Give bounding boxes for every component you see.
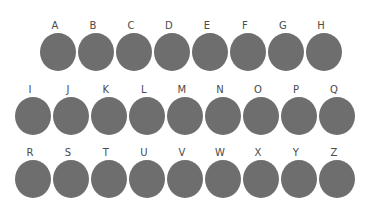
disc-shape-v[interactable] [167, 160, 203, 198]
disc-label-j: J [50, 84, 86, 96]
disc-cell-e[interactable]: E [192, 20, 228, 71]
disc-label-e: E [189, 20, 225, 32]
disc-cell-t[interactable]: T [91, 147, 127, 198]
disc-label-y: Y [278, 147, 314, 159]
disc-shape-k[interactable] [91, 97, 127, 135]
disc-cell-x[interactable]: X [243, 147, 279, 198]
disc-shape-x[interactable] [243, 160, 279, 198]
disc-label-q: Q [316, 84, 352, 96]
disc-shape-n[interactable] [205, 97, 241, 135]
disc-cell-d[interactable]: D [154, 20, 190, 71]
disc-cell-n[interactable]: N [205, 84, 241, 135]
disc-cell-q[interactable]: Q [319, 84, 355, 135]
disc-label-b: B [75, 20, 111, 32]
disc-cell-j[interactable]: J [53, 84, 89, 135]
disc-shape-f[interactable] [230, 33, 266, 71]
disc-shape-e[interactable] [192, 33, 228, 71]
disc-cell-b[interactable]: B [78, 20, 114, 71]
disc-shape-u[interactable] [129, 160, 165, 198]
disc-cell-l[interactable]: L [129, 84, 165, 135]
disc-shape-s[interactable] [53, 160, 89, 198]
row-2: IJKLMNOPQ [15, 84, 355, 135]
disc-label-k: K [88, 84, 124, 96]
disc-cell-p[interactable]: P [281, 84, 317, 135]
disc-label-v: V [164, 147, 200, 159]
disc-cell-o[interactable]: O [243, 84, 279, 135]
disc-cell-y[interactable]: Y [281, 147, 317, 198]
disc-shape-o[interactable] [243, 97, 279, 135]
disc-shape-r[interactable] [15, 160, 51, 198]
disc-label-t: T [88, 147, 124, 159]
disc-label-l: L [126, 84, 162, 96]
disc-label-h: H [303, 20, 339, 32]
disc-cell-f[interactable]: F [230, 20, 266, 71]
disc-cell-u[interactable]: U [129, 147, 165, 198]
disc-cell-h[interactable]: H [306, 20, 342, 71]
disc-label-x: X [240, 147, 276, 159]
disc-label-r: R [12, 147, 48, 159]
disc-shape-l[interactable] [129, 97, 165, 135]
disc-shape-c[interactable] [116, 33, 152, 71]
disc-label-m: M [164, 84, 200, 96]
disc-shape-j[interactable] [53, 97, 89, 135]
disc-label-c: C [113, 20, 149, 32]
disc-cell-i[interactable]: I [15, 84, 51, 135]
disc-label-f: F [227, 20, 263, 32]
disc-shape-q[interactable] [319, 97, 355, 135]
row-1: ABCDEFGH [40, 20, 342, 71]
disc-cell-g[interactable]: G [268, 20, 304, 71]
disc-cell-s[interactable]: S [53, 147, 89, 198]
disc-cell-c[interactable]: C [116, 20, 152, 71]
disc-cell-w[interactable]: W [205, 147, 241, 198]
disc-label-i: I [12, 84, 48, 96]
disc-shape-t[interactable] [91, 160, 127, 198]
disc-label-n: N [202, 84, 238, 96]
disc-label-w: W [202, 147, 238, 159]
disc-shape-m[interactable] [167, 97, 203, 135]
disc-label-o: O [240, 84, 276, 96]
disc-shape-p[interactable] [281, 97, 317, 135]
disc-label-p: P [278, 84, 314, 96]
disc-shape-d[interactable] [154, 33, 190, 71]
disc-shape-h[interactable] [306, 33, 342, 71]
disc-label-z: Z [316, 147, 352, 159]
disc-shape-g[interactable] [268, 33, 304, 71]
disc-label-a: A [37, 20, 73, 32]
disc-cell-v[interactable]: V [167, 147, 203, 198]
disc-label-d: D [151, 20, 187, 32]
disc-label-g: G [265, 20, 301, 32]
disc-shape-i[interactable] [15, 97, 51, 135]
disc-shape-z[interactable] [319, 160, 355, 198]
row-3: RSTUVWXYZ [15, 147, 355, 198]
disc-cell-r[interactable]: R [15, 147, 51, 198]
disc-cell-z[interactable]: Z [319, 147, 355, 198]
disc-cell-m[interactable]: M [167, 84, 203, 135]
labelled-disc-grid: ABCDEFGHIJKLMNOPQRSTUVWXYZ [0, 0, 365, 212]
disc-shape-w[interactable] [205, 160, 241, 198]
disc-label-u: U [126, 147, 162, 159]
disc-cell-k[interactable]: K [91, 84, 127, 135]
disc-shape-a[interactable] [40, 33, 76, 71]
disc-label-s: S [50, 147, 86, 159]
disc-shape-y[interactable] [281, 160, 317, 198]
disc-shape-b[interactable] [78, 33, 114, 71]
disc-cell-a[interactable]: A [40, 20, 76, 71]
